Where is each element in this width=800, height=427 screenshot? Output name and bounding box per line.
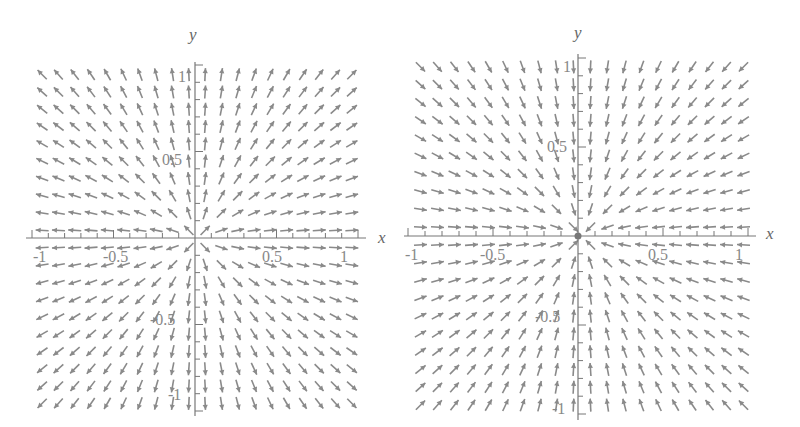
- arrowhead-icon: [455, 207, 460, 212]
- arrowhead-icon: [170, 352, 175, 357]
- left-vector-field-panel: x y -1 -0.5 0.5 1 1 0.5 -0.5 -1: [26, 25, 386, 416]
- arrowhead-icon: [703, 242, 708, 247]
- arrowhead-icon: [605, 363, 610, 368]
- arrowhead-icon: [588, 363, 593, 368]
- arrowhead-icon: [618, 225, 623, 230]
- arrowhead-icon: [219, 120, 224, 125]
- arrowhead-icon: [571, 104, 576, 109]
- arrowhead-icon: [669, 225, 674, 230]
- figure-canvas: x y -1 -0.5 0.5 1 1 0.5 -0.5 -1 x y -1 -…: [0, 0, 800, 427]
- arrowhead-icon: [473, 242, 478, 247]
- arrowhead-icon: [472, 260, 477, 265]
- left-y-tick-neg1: -1: [168, 386, 181, 403]
- arrowhead-icon: [554, 363, 559, 368]
- arrowhead-icon: [703, 260, 708, 265]
- left-y-tick-1: 1: [178, 68, 186, 85]
- arrowhead-icon: [703, 225, 708, 230]
- arrowhead-icon: [203, 103, 208, 108]
- arrowhead-icon: [85, 263, 90, 268]
- arrowhead-icon: [36, 228, 41, 233]
- arrowhead-icon: [186, 137, 191, 142]
- arrowhead-icon: [686, 207, 691, 212]
- arrowhead-icon: [588, 345, 593, 350]
- arrowhead-icon: [68, 245, 73, 250]
- arrowhead-icon: [588, 139, 593, 144]
- right-y-tick-neg1: -1: [552, 400, 565, 417]
- arrowhead-icon: [588, 381, 593, 386]
- arrowhead-icon: [554, 121, 559, 126]
- arrowhead-icon: [588, 399, 593, 404]
- arrowhead-icon: [686, 225, 691, 230]
- arrowhead-icon: [170, 103, 175, 108]
- right-y-tick-05: 0.5: [547, 138, 567, 155]
- left-y-tick-neg05: -0.5: [150, 311, 175, 328]
- arrowhead-icon: [288, 245, 293, 250]
- left-y-tick-05: 0.5: [162, 151, 182, 168]
- arrowhead-icon: [203, 68, 208, 73]
- arrowhead-icon: [68, 228, 73, 233]
- arrowhead-icon: [203, 335, 208, 340]
- arrowhead-icon: [456, 225, 461, 230]
- arrowhead-icon: [456, 242, 461, 247]
- arrowhead-icon: [150, 245, 155, 250]
- arrowhead-icon: [554, 103, 559, 108]
- arrowhead-icon: [85, 245, 90, 250]
- right-origin-marker: [575, 233, 582, 240]
- arrowhead-icon: [203, 405, 208, 410]
- arrowhead-icon: [490, 225, 495, 230]
- arrowhead-icon: [571, 192, 576, 197]
- arrowhead-icon: [588, 274, 593, 279]
- arrowhead-icon: [186, 85, 191, 90]
- arrowhead-icon: [170, 370, 175, 375]
- arrowhead-icon: [186, 189, 191, 194]
- arrowhead-icon: [203, 387, 208, 392]
- arrowhead-icon: [304, 210, 309, 215]
- arrowhead-icon: [571, 399, 576, 404]
- arrowhead-icon: [571, 68, 576, 73]
- arrowhead-icon: [588, 192, 593, 197]
- arrowhead-icon: [203, 370, 208, 375]
- arrowhead-icon: [203, 283, 208, 288]
- right-x-tick-1: 1: [735, 246, 743, 263]
- arrowhead-icon: [571, 122, 576, 127]
- arrowhead-icon: [455, 260, 460, 265]
- left-arrow-field: [36, 68, 359, 410]
- arrowhead-icon: [186, 335, 191, 340]
- arrowhead-icon: [720, 225, 725, 230]
- arrowhead-icon: [571, 86, 576, 91]
- arrowhead-icon: [219, 370, 224, 375]
- arrowhead-icon: [737, 225, 742, 230]
- arrowhead-icon: [605, 345, 610, 350]
- arrowhead-icon: [588, 68, 593, 73]
- arrowhead-icon: [588, 104, 593, 109]
- arrowhead-icon: [203, 137, 208, 142]
- arrowhead-icon: [321, 245, 326, 250]
- arrowhead-icon: [186, 283, 191, 288]
- right-x-tick-neg1: -1: [405, 246, 418, 263]
- arrowhead-icon: [571, 274, 576, 279]
- arrowhead-icon: [203, 120, 208, 125]
- arrowhead-icon: [85, 210, 90, 215]
- arrowhead-icon: [101, 228, 106, 233]
- arrowhead-icon: [605, 103, 610, 108]
- arrowhead-icon: [186, 353, 191, 358]
- arrowhead-icon: [353, 245, 358, 250]
- arrowhead-icon: [186, 120, 191, 125]
- arrowhead-icon: [703, 207, 708, 212]
- arrowhead-icon: [304, 228, 309, 233]
- right-y-tick-neg05: -0.5: [535, 308, 560, 325]
- arrowhead-icon: [288, 228, 293, 233]
- arrowhead-icon: [588, 86, 593, 91]
- left-x-tick-1: 1: [340, 248, 348, 265]
- arrowhead-icon: [439, 242, 444, 247]
- arrowhead-icon: [186, 103, 191, 108]
- right-x-tick-05: 0.5: [648, 246, 668, 263]
- arrowhead-icon: [239, 228, 244, 233]
- arrowhead-icon: [571, 363, 576, 368]
- arrowhead-icon: [150, 228, 155, 233]
- arrowhead-icon: [304, 245, 309, 250]
- arrowhead-icon: [68, 210, 73, 215]
- arrowhead-icon: [720, 242, 725, 247]
- arrowhead-icon: [304, 263, 309, 268]
- arrowhead-icon: [473, 225, 478, 230]
